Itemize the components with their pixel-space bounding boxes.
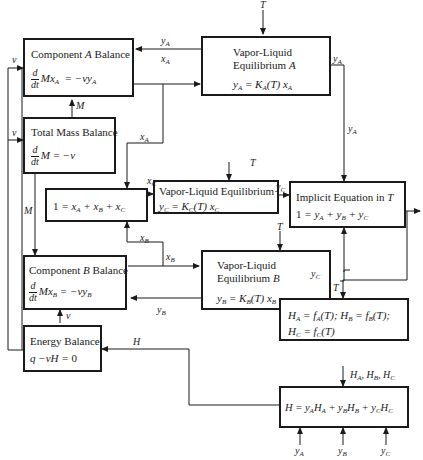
mixture-enthalpy-block: H = yAHA + yBHB + yCHC xyxy=(279,386,409,428)
label-yB-to-compB: yB xyxy=(157,305,166,317)
component-a-balance-block: Component A Balance ddtMxA = −vyA xyxy=(23,38,134,97)
label-yA-down: yA xyxy=(348,124,357,136)
enthalpy-functions-block: HA = fA(T); HB = fB(T); HC = fC(T) xyxy=(279,298,409,341)
label-yA-input: yA xyxy=(295,446,304,458)
vle-a-title-line2: Equilibrium A xyxy=(233,60,296,71)
label-H: H xyxy=(133,337,140,347)
label-yA-out: yA xyxy=(333,54,342,66)
label-xB-up: xB xyxy=(140,233,149,245)
vle-b-title-line1: Vapor-Liquid xyxy=(217,260,276,271)
label-xA-down: xA xyxy=(140,132,149,144)
label-yC-from-vleB: yC xyxy=(311,269,320,281)
label-T-vleA: T xyxy=(260,0,266,10)
label-yB-input: yB xyxy=(338,446,347,458)
implicit-t-title: Implicit Equation in T xyxy=(296,192,393,203)
vle-b-title-line2: Equilibrium B xyxy=(217,273,280,284)
label-T-enthalpy: T xyxy=(333,283,339,293)
energy-title: Energy Balance xyxy=(30,336,100,347)
label-v-mid: v xyxy=(12,128,16,138)
sum-x-equation: 1 = xA + xB + xC xyxy=(53,201,125,214)
implicit-t-equation: 1 = yA + yB + yC xyxy=(296,209,368,222)
component-a-title: Component A Balance xyxy=(31,49,130,60)
label-T-vleC: T xyxy=(250,158,256,168)
component-b-title: Component B Balance xyxy=(29,265,128,276)
mixture-enthalpy-equation: H = yAHA + yBHB + yCHC xyxy=(285,403,393,415)
enthalpy-functions-line1: HA = fA(T); HB = fB(T); xyxy=(288,310,390,323)
label-M-up: M xyxy=(76,101,84,111)
total-mass-equation: ddtM = −v xyxy=(31,145,75,167)
total-mass-balance-block: Total Mass Balance ddtM = −v xyxy=(23,117,116,174)
label-yA-to-compA: yA xyxy=(161,36,170,48)
total-mass-title: Total Mass Balance xyxy=(31,127,118,138)
component-a-equation: ddtMxA = −vyA xyxy=(31,68,96,90)
energy-equation: q −vH = 0 xyxy=(30,353,77,364)
label-T-vleB: T xyxy=(277,222,283,232)
sum-x-constraint-block: 1 = xA + xB + xC xyxy=(45,188,148,222)
vle-a-title-line1: Vapor-Liquid xyxy=(233,47,292,58)
label-xA-to-vleA: xA xyxy=(161,54,170,66)
implicit-t-block: Implicit Equation in T 1 = yA + yB + yC xyxy=(289,181,406,228)
label-v-energy: v xyxy=(66,311,70,321)
enthalpy-functions-line2: HC = fC(T) xyxy=(288,326,335,339)
label-yC-input: yC xyxy=(381,446,390,458)
label-yC-to-implicit: yC xyxy=(276,182,285,194)
label-M-down: M xyxy=(24,206,32,216)
label-xB-to-vleB: xB xyxy=(166,252,175,264)
vle-a-block: Vapor-Liquid Equilibrium A yA = KA(T) xA xyxy=(201,36,331,96)
vle-c-title: Vapor-Liquid Equilibrium xyxy=(159,186,274,197)
label-HA-HB-HC: HA, HB, HC xyxy=(350,370,395,382)
vle-b-equation: yB = KB(T) xB xyxy=(217,293,276,306)
component-b-equation: ddtMxB = −vyB xyxy=(29,281,92,303)
vle-c-equation: yC = KC(T) xC xyxy=(159,201,219,214)
vle-c-block: Vapor-Liquid Equilibrium yC = KC(T) xC xyxy=(153,180,279,214)
label-v-top: v xyxy=(12,55,16,65)
vle-a-equation: yA = KA(T) xA xyxy=(233,79,292,92)
label-xC: xC xyxy=(147,176,156,188)
energy-balance-block: Energy Balance q −vH = 0 xyxy=(23,325,102,372)
component-b-balance-block: Component B Balance ddtMxB = −vyB xyxy=(23,255,127,310)
